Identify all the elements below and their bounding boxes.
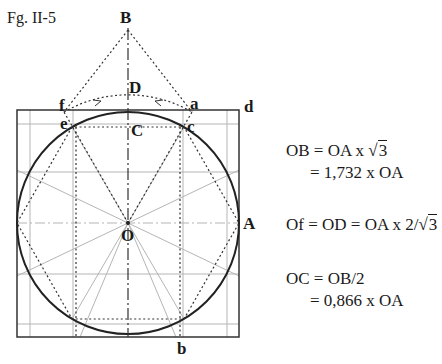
- label-A: A: [243, 215, 255, 232]
- equation-oc: OC = OB/2: [286, 270, 365, 287]
- equation-of: Of = OD = OA x 2/√3: [286, 216, 437, 233]
- sqrt-symbol: √3: [419, 216, 438, 233]
- label-a: a: [190, 95, 199, 112]
- equation-of-lhs: Of = OD = OA x 2/: [286, 215, 419, 234]
- label-O: O: [121, 227, 134, 244]
- label-b: b: [177, 340, 186, 357]
- equation-oc-value: = 0,866 x OA: [310, 292, 404, 309]
- label-c: c: [187, 118, 195, 135]
- label-f: f: [59, 97, 65, 114]
- equation-ob: OB = OA x √3: [286, 142, 387, 159]
- label-C: C: [131, 122, 143, 139]
- equation-ob-lhs: OB = OA x: [286, 141, 368, 160]
- label-D: D: [129, 79, 141, 96]
- label-e: e: [60, 115, 68, 132]
- sqrt-symbol: √3: [368, 142, 387, 159]
- equation-ob-value: = 1,732 x OA: [310, 164, 404, 181]
- label-B: B: [120, 9, 131, 26]
- label-d: d: [244, 98, 253, 115]
- center-point: [126, 221, 130, 225]
